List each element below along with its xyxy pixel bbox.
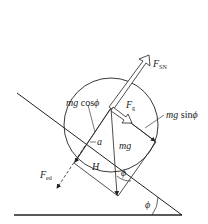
mg-sin-label: mg sinϕ	[166, 110, 198, 120]
phi-base-label: ϕ	[145, 200, 150, 210]
h-label: H	[92, 162, 99, 172]
mg-cos-leader	[88, 105, 95, 132]
mg-sin-leader	[145, 115, 164, 128]
a-label: a	[97, 137, 102, 147]
phi-base-arc	[152, 197, 158, 215]
phi-inner-label: ϕ	[121, 168, 126, 178]
mg-arrow	[111, 108, 117, 195]
f-ed-label: Fed	[40, 170, 52, 181]
mg-cos-label: mg cosϕ	[66, 98, 99, 108]
f-ed-arrow	[57, 146, 85, 188]
mg-label: mg	[119, 141, 131, 151]
f-sn-label: FSN	[153, 59, 167, 70]
incline-line	[17, 93, 182, 215]
f-g-label: Fg	[126, 100, 135, 111]
diagram-canvas: FSN Fg mg cosϕ mg sinϕ mg a H Fed ϕ ϕ	[0, 0, 208, 224]
mg-cos-arrow	[75, 108, 111, 162]
force-decomposition-rect	[74, 108, 156, 196]
